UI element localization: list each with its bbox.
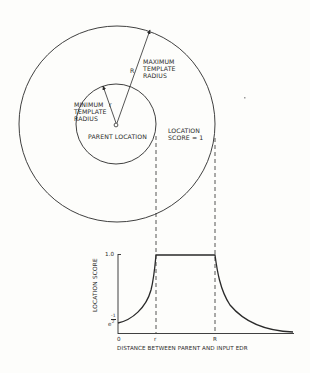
parent-location-point bbox=[114, 123, 118, 127]
y-tick-low-exponent: -1 2 bbox=[111, 314, 116, 324]
annulus-label-line2: SCORE = 1 bbox=[168, 134, 203, 141]
min-radius-symbol: r bbox=[109, 101, 112, 108]
min-label-line3: RADIUS bbox=[74, 115, 107, 122]
parent-location-label: PARENT LOCATION bbox=[88, 133, 147, 140]
diagram-graphics bbox=[0, 0, 310, 373]
min-label-line1: MINIMUM bbox=[74, 101, 107, 108]
location-score-curve bbox=[118, 255, 293, 332]
max-label-line1: MAXIMUM bbox=[143, 58, 176, 65]
x-tick-R: R bbox=[213, 336, 217, 342]
y-tick-1: 1.0 bbox=[105, 251, 114, 257]
diagram-canvas: R MAXIMUM TEMPLATE RADIUS r MINIMUM TEMP… bbox=[0, 0, 310, 373]
max-label-line2: TEMPLATE bbox=[143, 65, 176, 72]
x-tick-0: 0 bbox=[117, 336, 121, 342]
max-radius-symbol: R bbox=[130, 67, 134, 74]
min-radius-label: MINIMUM TEMPLATE RADIUS bbox=[74, 101, 107, 122]
annulus-score-label: LOCATION SCORE = 1 bbox=[168, 127, 203, 141]
min-label-line2: TEMPLATE bbox=[74, 108, 107, 115]
max-radius-label: MAXIMUM TEMPLATE RADIUS bbox=[143, 58, 176, 79]
exp-denominator: 2 bbox=[111, 320, 116, 325]
scan-speck bbox=[244, 97, 246, 99]
y-axis-label: LOCATION SCORE bbox=[92, 258, 98, 312]
annulus-label-line1: LOCATION bbox=[168, 127, 203, 134]
x-axis-label: DISTANCE BETWEEN PARENT AND INPUT EDR bbox=[117, 345, 248, 351]
max-label-line3: RADIUS bbox=[143, 72, 176, 79]
x-tick-r: r bbox=[154, 336, 156, 342]
